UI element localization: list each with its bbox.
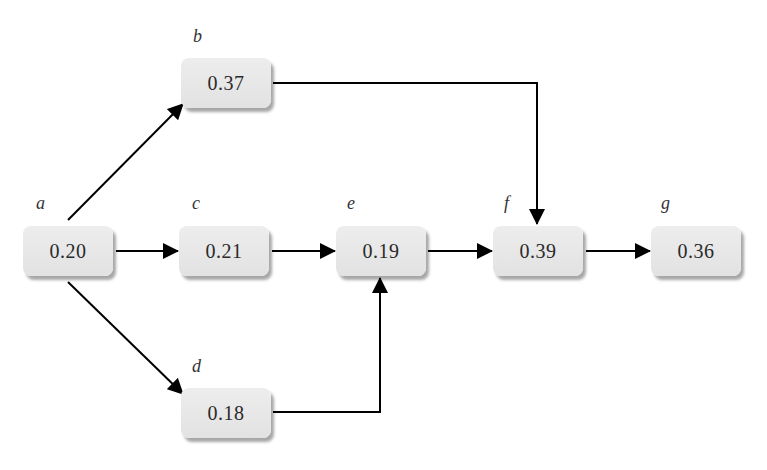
node-label-g: g — [661, 193, 670, 214]
node-label-f: f — [504, 193, 509, 214]
node-g: 0.36 — [651, 226, 741, 276]
node-value-d: 0.18 — [208, 402, 245, 425]
node-b: 0.37 — [181, 58, 271, 108]
edge-b-f — [273, 83, 537, 224]
node-label-b: b — [193, 26, 202, 47]
node-c: 0.21 — [179, 226, 269, 276]
edge-d-e — [273, 278, 380, 412]
edge-a-b — [68, 104, 183, 220]
node-label-e: e — [347, 193, 355, 214]
node-d: 0.18 — [181, 388, 271, 438]
node-e: 0.19 — [336, 226, 426, 276]
node-value-b: 0.37 — [208, 72, 245, 95]
node-value-a: 0.20 — [50, 240, 87, 263]
node-f: 0.39 — [493, 226, 583, 276]
node-label-c: c — [192, 193, 200, 214]
node-value-f: 0.39 — [520, 240, 557, 263]
node-value-c: 0.21 — [206, 240, 243, 263]
node-value-g: 0.36 — [678, 240, 715, 263]
edge-a-d — [68, 282, 183, 394]
node-label-d: d — [192, 356, 201, 377]
node-a: 0.20 — [23, 226, 113, 276]
node-value-e: 0.19 — [363, 240, 400, 263]
node-label-a: a — [36, 193, 45, 214]
